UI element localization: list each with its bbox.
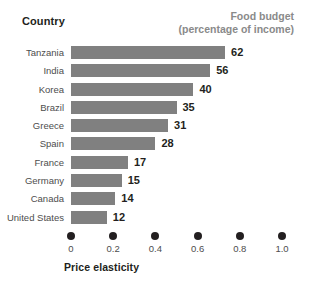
bar-value-label: 35 xyxy=(183,101,195,114)
bar xyxy=(71,137,155,150)
bar-value-label: 12 xyxy=(113,211,125,224)
bar-row: India56 xyxy=(0,63,310,81)
bar-row: Brazil35 xyxy=(0,100,310,118)
bar-row: Korea40 xyxy=(0,82,310,100)
bar-row-country-label: Spain xyxy=(0,138,64,149)
x-axis-tick-label: 0.8 xyxy=(226,243,254,254)
bar-track: 17 xyxy=(71,156,282,169)
x-axis-tick-label: 1.0 xyxy=(268,243,296,254)
bar xyxy=(71,174,122,187)
bar xyxy=(71,64,210,77)
bar-track: 14 xyxy=(71,192,282,205)
x-axis-title: Price elasticity xyxy=(64,261,139,273)
x-axis-tick-label: 0 xyxy=(57,243,85,254)
bar-row-country-label: United States xyxy=(0,212,64,223)
x-axis-tick-label: 0.2 xyxy=(99,243,127,254)
column-header-food-budget-line2: (percentage of income) xyxy=(178,23,294,36)
x-axis-tick-dot xyxy=(278,232,286,240)
bar-row-country-label: Brazil xyxy=(0,102,64,113)
bar xyxy=(71,119,168,132)
column-header-food-budget: Food budget (percentage of income) xyxy=(178,10,294,36)
bar-row-country-label: Germany xyxy=(0,175,64,186)
x-axis-tick-label: 0.6 xyxy=(184,243,212,254)
bar-row-country-label: France xyxy=(0,157,64,168)
bar xyxy=(71,46,225,59)
x-axis-tick-dot xyxy=(67,232,75,240)
bar-value-label: 15 xyxy=(128,174,140,187)
bar xyxy=(71,211,107,224)
bar-row-country-label: Korea xyxy=(0,84,64,95)
bar xyxy=(71,192,115,205)
bar-track: 56 xyxy=(71,64,282,77)
bar-track: 28 xyxy=(71,137,282,150)
bar xyxy=(71,156,128,169)
bar-row: France17 xyxy=(0,155,310,173)
bar-row: Tanzania62 xyxy=(0,45,310,63)
x-axis-tick-label: 0.4 xyxy=(141,243,169,254)
bar-row-country-label: Tanzania xyxy=(0,47,64,58)
bar-track: 31 xyxy=(71,119,282,132)
bar-value-label: 31 xyxy=(174,119,186,132)
x-axis-tick-dot xyxy=(236,232,244,240)
bar-track: 35 xyxy=(71,101,282,114)
chart-container: Country Food budget (percentage of incom… xyxy=(0,0,310,285)
bar-value-label: 40 xyxy=(199,83,211,96)
bar-row-country-label: Greece xyxy=(0,120,64,131)
x-axis-tick-dot xyxy=(194,232,202,240)
bar xyxy=(71,83,193,96)
bar-row-country-label: Canada xyxy=(0,193,64,204)
bar-value-label: 17 xyxy=(134,156,146,169)
bar-value-label: 62 xyxy=(231,46,243,59)
column-header-food-budget-line1: Food budget xyxy=(178,10,294,23)
bar-row-country-label: India xyxy=(0,65,64,76)
bar-track: 15 xyxy=(71,174,282,187)
bar-track: 12 xyxy=(71,211,282,224)
column-header-country: Country xyxy=(22,15,65,27)
bar-row: Spain28 xyxy=(0,136,310,154)
x-axis: 00.20.40.60.81.0 xyxy=(71,232,282,262)
bar-track: 40 xyxy=(71,83,282,96)
bar-value-label: 28 xyxy=(161,137,173,150)
bar xyxy=(71,101,177,114)
bar-track: 62 xyxy=(71,46,282,59)
bar-row: United States12 xyxy=(0,210,310,228)
x-axis-tick-dot xyxy=(109,232,117,240)
bar-rows: Tanzania62India56Korea40Brazil35Greece31… xyxy=(0,45,310,228)
x-axis-tick-dot xyxy=(151,232,159,240)
bar-value-label: 14 xyxy=(121,192,133,205)
bar-value-label: 56 xyxy=(216,64,228,77)
bar-row: Greece31 xyxy=(0,118,310,136)
chart-header: Country Food budget (percentage of incom… xyxy=(0,0,310,42)
bar-row: Canada14 xyxy=(0,191,310,209)
bar-row: Germany15 xyxy=(0,173,310,191)
